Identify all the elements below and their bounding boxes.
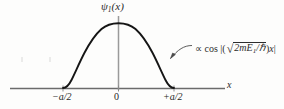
- x-tick-label-zero: 0: [114, 92, 119, 102]
- radical-sign: √: [227, 42, 234, 56]
- proportional-symbol: ∝: [195, 43, 202, 54]
- y-axis-label-symbol: ψ: [101, 0, 108, 12]
- y-axis-label-argument: (x): [112, 0, 124, 12]
- annotation-leader-line: [171, 46, 193, 59]
- wavefunction-figure: ψ1(x) −a/2 0 +a/2 x ∝ cos |(√2mE1/ℏ)x|: [0, 0, 284, 109]
- x-axis-label: x: [227, 80, 231, 90]
- radicand-body: 2mE: [234, 42, 252, 53]
- square-root-group: √2mE1/ℏ: [226, 42, 266, 56]
- x-tick-label-pos-a-over-2: +a/2: [163, 92, 183, 102]
- hbar-divisor: /ℏ: [256, 42, 265, 53]
- radicand: 2mE1/ℏ: [233, 42, 266, 55]
- curve-formula-annotation: ∝ cos |(√2mE1/ℏ)x|: [195, 42, 276, 56]
- x-tick-label-neg-a-over-2: −a/2: [52, 92, 72, 102]
- cosine-function-name: cos: [205, 43, 218, 54]
- y-axis-label: ψ1(x): [101, 1, 124, 14]
- formula-close-bracket: |: [274, 43, 276, 54]
